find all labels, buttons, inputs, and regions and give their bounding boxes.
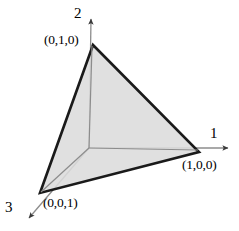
axis-label-3: 3 [5,200,13,215]
vertex-label-001: (0,0,1) [43,196,78,210]
simplex-diagram-canvas [0,0,239,231]
vertex-label-100: (1,0,0) [182,158,217,172]
simplex-figure: 2 1 3 (0,1,0) (1,0,0) (0,0,1) [0,0,239,231]
vertex-label-010: (0,1,0) [44,33,79,47]
axis-label-2: 2 [74,6,82,21]
axis-label-1: 1 [210,126,218,141]
